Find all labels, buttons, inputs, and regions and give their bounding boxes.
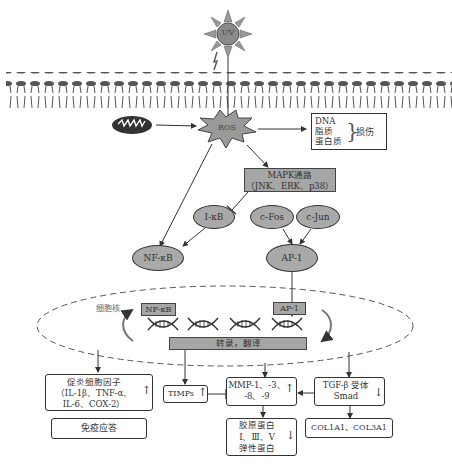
- collagen-text: 胶原蛋白 Ⅰ、Ⅲ、Ⅴ 弹性蛋白: [227, 420, 287, 455]
- damage-box: DNA 脂质 蛋白质 } 损伤: [311, 113, 387, 150]
- tgf-line-2: Smad: [315, 391, 377, 402]
- proinflammatory-cytokines-box: 促炎细胞因子 （IL-1β、TNF-α、 IL-6、COX-2） ↑: [45, 374, 153, 411]
- timps-label: TIMPs: [168, 389, 194, 398]
- nucleus-label: 细胞核: [96, 304, 120, 313]
- collagen-line-1: 胶原蛋白: [227, 420, 287, 432]
- damage-item-lipid: 脂质: [315, 126, 342, 136]
- timps-box: TIMPs ↑: [163, 385, 208, 403]
- cytokines-text: 促炎细胞因子 （IL-1β、TNF-α、 IL-6、COX-2）: [46, 377, 142, 410]
- cfos-node: c-Fos: [250, 205, 294, 229]
- nucleus-boundary: [37, 286, 413, 366]
- damage-item-protein: 蛋白质: [315, 136, 342, 146]
- cytokines-list-2: IL-6、COX-2）: [46, 399, 142, 410]
- transcription-translation-box: 转录，翻译: [169, 337, 307, 350]
- damage-item-dna: DNA: [315, 116, 342, 126]
- uv-label: UV: [218, 28, 238, 37]
- cjun-node: c-Jun: [296, 205, 340, 229]
- collagen-elastin-box: 胶原蛋白 Ⅰ、Ⅲ、Ⅴ 弹性蛋白 ↓: [226, 418, 297, 456]
- down-arrow-icon: ↓: [286, 430, 295, 443]
- ros-label: ROS: [212, 123, 242, 132]
- col-genes-box: COL1A1、COL3A1: [305, 418, 393, 438]
- cell-membrane: [6, 72, 452, 108]
- mmp-line-1: MMP-1、-3、: [227, 380, 287, 391]
- mapk-title: MAPK通路: [245, 169, 335, 181]
- mmp-box: MMP-1、-3、 -8、-9 ↑: [226, 377, 297, 406]
- up-arrow-icon: ↑: [198, 387, 207, 400]
- ikb-node: I-κB: [193, 205, 235, 229]
- collagen-line-2: Ⅰ、Ⅲ、Ⅴ: [227, 432, 287, 444]
- mmp-text: MMP-1、-3、 -8、-9: [227, 380, 287, 402]
- mmp-line-2: -8、-9: [227, 391, 287, 402]
- tgf-line-1: TGF-β 受体: [315, 380, 377, 391]
- collagen-line-3: 弹性蛋白: [227, 443, 287, 455]
- mitochondrion-icon: [112, 116, 152, 134]
- mapk-members: （JNK、ERK、p38）: [245, 181, 335, 192]
- cytokines-list-1: （IL-1β、TNF-α、: [46, 388, 142, 399]
- mapk-pathway-box: MAPK通路 （JNK、ERK、p38）: [244, 168, 336, 192]
- up-arrow-icon: ↑: [285, 383, 294, 396]
- nfkb-node: NF-κB: [132, 245, 184, 271]
- nucleus-nfkb-box: NF-κB: [141, 303, 176, 316]
- tgf-text: TGF-β 受体 Smad: [315, 380, 377, 402]
- nucleus-ap1-box: AP-1: [273, 302, 306, 315]
- immune-response-box: 免疫应答: [51, 418, 147, 439]
- up-arrow-icon: ↑: [142, 385, 151, 398]
- ap1-node: AP-1: [266, 244, 318, 272]
- cytokines-title: 促炎细胞因子: [46, 377, 142, 388]
- damage-result: 损伤: [356, 127, 374, 137]
- uv-skin-aging-pathway-diagram: UV ROS DNA 脂质 蛋白质 } 损伤 MAPK通路 （JNK、ERK、p…: [0, 0, 452, 464]
- damage-items: DNA 脂质 蛋白质: [315, 116, 342, 147]
- tgf-beta-receptor-box: TGF-β 受体 Smad ↓: [314, 377, 385, 406]
- down-arrow-icon: ↓: [374, 387, 383, 400]
- lightning-icon: [214, 52, 217, 70]
- dna-helix-icons: [148, 318, 302, 330]
